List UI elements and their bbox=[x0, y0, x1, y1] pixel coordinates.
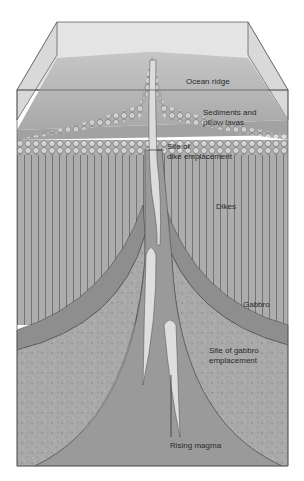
label-sediments-2: pillow lavas bbox=[203, 118, 244, 127]
label-rising-magma: Rising magma bbox=[170, 441, 221, 450]
label-dikes: Dikes bbox=[216, 202, 236, 211]
label-sediments-1: Sediments and bbox=[203, 108, 256, 117]
ocean-ridge-diagram bbox=[0, 0, 304, 481]
label-dike-site-2: dike emplacement bbox=[167, 152, 232, 161]
label-gabbro-site-1: Site of gabbro bbox=[209, 346, 259, 355]
label-ocean-ridge: Ocean ridge bbox=[186, 77, 230, 86]
label-gabbro-site-2: emplacement bbox=[209, 356, 257, 365]
label-gabbro: Gabbro bbox=[243, 300, 270, 309]
label-dike-site-1: Site of bbox=[167, 142, 190, 151]
